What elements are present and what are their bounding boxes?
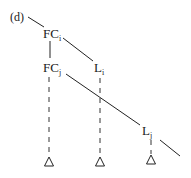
tree-diagram: (d) FCi FCj Li Lj	[0, 0, 191, 178]
svg-text:Lj: Lj	[142, 123, 152, 140]
node-li: Li	[94, 60, 105, 77]
node-li-sub: i	[102, 68, 105, 77]
node-fcj-sub: j	[58, 68, 61, 77]
node-fci-base: FC	[43, 26, 59, 41]
edge-lj-to-offscreen	[160, 140, 180, 156]
svg-text:FCi: FCi	[43, 26, 62, 43]
edge-fci-to-li	[63, 38, 93, 61]
edge-fcj-to-lj	[66, 74, 140, 125]
node-fci: FCi	[43, 26, 62, 43]
svg-text:FCj: FCj	[43, 60, 61, 77]
node-fci-sub: i	[59, 34, 62, 43]
node-li-base: L	[94, 60, 102, 75]
node-lj-sub: j	[149, 131, 152, 140]
node-lj-base: L	[142, 123, 150, 138]
triangle-icon	[45, 157, 54, 166]
node-fcj: FCj	[43, 60, 61, 77]
svg-text:Li: Li	[94, 60, 105, 77]
edge-label-to-fci	[28, 17, 44, 27]
triangle-icon	[147, 155, 156, 164]
node-fcj-base: FC	[43, 60, 59, 75]
triangle-icon	[96, 157, 105, 166]
node-lj: Lj	[142, 123, 152, 140]
panel-label: (d)	[10, 10, 24, 24]
